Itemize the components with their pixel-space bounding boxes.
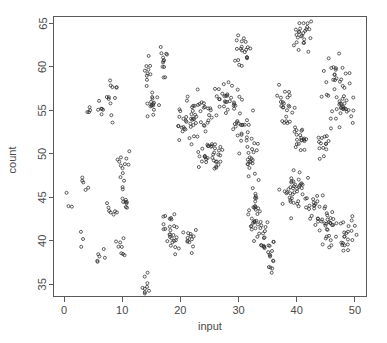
y-tick-label: 45 [37, 191, 49, 203]
plot-canvas: 01020304050 35404550556065 input count [0, 0, 387, 343]
y-tick-label: 55 [37, 104, 49, 116]
x-axis-title: input [198, 320, 222, 332]
x-tick-label: 40 [291, 304, 303, 316]
y-tick-label: 60 [37, 61, 49, 73]
y-tick-label: 40 [37, 235, 49, 247]
x-tick-label: 50 [349, 304, 361, 316]
x-tick-label: 30 [232, 304, 244, 316]
figure-background [0, 0, 387, 343]
y-tick-label: 65 [37, 17, 49, 29]
x-tick-label: 0 [61, 304, 67, 316]
x-tick-label: 20 [174, 304, 186, 316]
y-tick-label: 35 [37, 278, 49, 290]
x-tick-label: 10 [116, 304, 128, 316]
y-tick-label: 50 [37, 148, 49, 160]
scatter-plot-figure: 01020304050 35404550556065 input count [0, 0, 387, 343]
y-axis-title: count [6, 147, 18, 174]
